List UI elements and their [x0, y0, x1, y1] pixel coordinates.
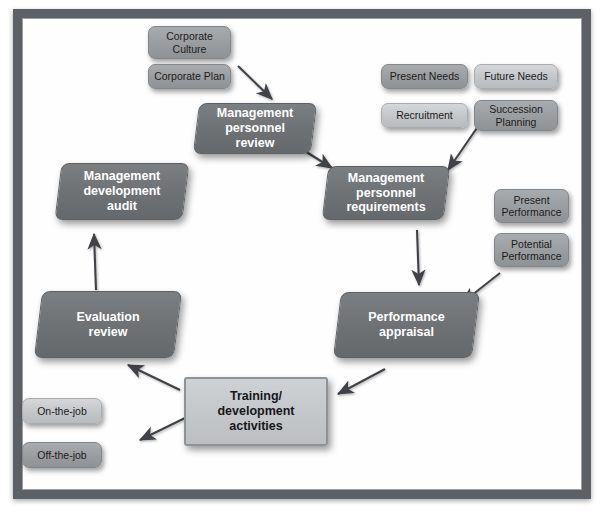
process-evaluation-review[interactable]: Evaluationreview — [38, 291, 178, 358]
chip-corporate-plan-label: Corporate Plan — [150, 70, 229, 82]
chip-succession-planning-label: SuccessionPlanning — [485, 103, 547, 128]
process-performance-appraisal[interactable]: Performanceappraisal — [337, 292, 476, 358]
chip-recruitment-label: Recruitment — [392, 109, 457, 121]
process-management-personnel-review[interactable]: Managementpersonnelreview — [196, 103, 314, 154]
chip-present-needs[interactable]: Present Needs — [381, 64, 468, 89]
chip-on-the-job-label: On-the-job — [33, 405, 91, 417]
chip-corporate-culture[interactable]: CorporateCulture — [148, 26, 231, 59]
chip-off-the-job[interactable]: Off-the-job — [22, 442, 102, 468]
process-management-development-audit[interactable]: Managementdevelopmentaudit — [58, 163, 186, 220]
chip-off-the-job-label: Off-the-job — [33, 449, 90, 461]
chip-present-performance[interactable]: PresentPerformance — [494, 189, 569, 223]
chip-potential-performance[interactable]: PotentialPerformance — [494, 233, 569, 267]
process-management-personnel-review-label: Managementpersonnelreview — [213, 106, 297, 150]
process-management-personnel-requirements-label: Managementpersonnelrequirements — [342, 171, 429, 215]
process-management-development-audit-label: Managementdevelopmentaudit — [79, 169, 164, 213]
diagram-canvas: CorporateCulture Corporate Plan Present … — [0, 0, 606, 515]
chip-potential-performance-label: PotentialPerformance — [497, 238, 565, 263]
chip-on-the-job[interactable]: On-the-job — [22, 398, 102, 424]
chip-corporate-plan[interactable]: Corporate Plan — [148, 64, 231, 89]
process-evaluation-review-label: Evaluationreview — [72, 310, 143, 340]
chip-future-needs[interactable]: Future Needs — [474, 64, 558, 89]
chip-present-performance-label: PresentPerformance — [497, 194, 565, 219]
process-management-personnel-requirements[interactable]: Managementpersonnelrequirements — [325, 166, 447, 220]
process-training-development-activities-label: Training/developmentactivities — [213, 389, 298, 433]
chip-corporate-culture-label: CorporateCulture — [162, 30, 217, 55]
chip-succession-planning[interactable]: SuccessionPlanning — [474, 100, 558, 131]
chip-future-needs-label: Future Needs — [480, 70, 552, 82]
chip-present-needs-label: Present Needs — [386, 70, 463, 82]
process-training-development-activities[interactable]: Training/developmentactivities — [184, 377, 328, 446]
chip-recruitment[interactable]: Recruitment — [381, 103, 468, 128]
process-performance-appraisal-label: Performanceappraisal — [364, 310, 448, 340]
